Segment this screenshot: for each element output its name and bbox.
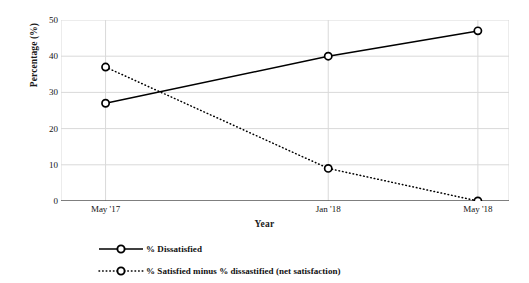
plot-area xyxy=(61,20,509,201)
legend-line-marker-icon xyxy=(98,264,144,278)
plot-svg xyxy=(61,20,509,201)
x-axis-tick-label: May '18 xyxy=(463,203,492,215)
legend-label: % Dissatisfied xyxy=(146,244,202,254)
y-axis-tick-label: 30 xyxy=(36,88,58,97)
x-axis-tick-label: Jan '18 xyxy=(316,203,341,215)
legend-item[interactable]: % Satisfied minus % dissastified (net sa… xyxy=(0,260,529,282)
legend-marker-circle-icon xyxy=(117,245,124,252)
data-point-marker[interactable] xyxy=(325,165,332,172)
y-axis-tick-label: 50 xyxy=(36,16,58,25)
y-axis-tick-label: 10 xyxy=(36,160,58,169)
chart-figure: Percentage (%) 01020304050 May '17Jan '1… xyxy=(0,0,529,283)
data-point-marker[interactable] xyxy=(474,197,481,201)
data-point-marker[interactable] xyxy=(325,53,332,60)
data-point-marker[interactable] xyxy=(102,100,109,107)
x-axis-title: Year xyxy=(0,219,529,229)
data-line-series-2 xyxy=(106,67,478,201)
legend-item[interactable]: % Dissatisfied xyxy=(0,238,529,260)
data-point-marker[interactable] xyxy=(474,27,481,34)
y-axis-tick-label: 20 xyxy=(36,124,58,133)
legend-label: % Satisfied minus % dissastified (net sa… xyxy=(146,266,341,276)
legend-marker-circle-icon xyxy=(117,267,124,274)
legend-line-marker-icon xyxy=(98,242,144,256)
y-axis-tick-label: 40 xyxy=(36,52,58,61)
x-axis-tick-label: May '17 xyxy=(91,203,120,215)
x-axis-tick-labels: May '17Jan '18May '18 xyxy=(61,203,509,219)
chart-legend: % Dissatisfied% Satisfied minus % dissas… xyxy=(0,238,529,282)
y-axis-tick-label: 0 xyxy=(36,197,58,206)
data-point-marker[interactable] xyxy=(102,63,109,70)
